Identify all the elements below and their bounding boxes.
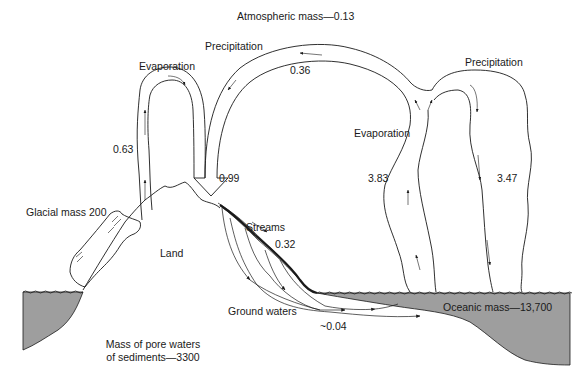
- streams-label: Streams: [246, 221, 285, 234]
- water-cycle-diagram: Atmospheric mass—0.13 Precipitation 0.36…: [0, 0, 585, 381]
- pore-waters-label: Mass of pore waters of sediments—3300: [98, 338, 208, 363]
- ocean-evaporation-value: 3.83: [368, 172, 388, 185]
- pore-waters-line2: of sediments—3300: [98, 351, 208, 364]
- land-precipitation-value: 0.36: [290, 64, 310, 77]
- land-evaporation-value: 0.63: [113, 143, 133, 156]
- glacier: [70, 211, 141, 287]
- land-evaporation-loop: [137, 67, 205, 220]
- ocean-precipitation-label: Precipitation: [465, 56, 523, 69]
- ocean-evaporation-label: Evaporation: [354, 127, 410, 140]
- oceanic-mass-label: Oceanic mass—13,700: [443, 301, 552, 314]
- land-precipitation-label: Precipitation: [205, 40, 263, 53]
- land-label: Land: [160, 247, 183, 260]
- pore-waters-line1: Mass of pore waters: [98, 338, 208, 351]
- streams-value: 0.32: [275, 238, 295, 251]
- ocean-precipitation-value: 3.47: [497, 172, 517, 185]
- glacial-mass-label: Glacial mass 200: [26, 206, 107, 219]
- land-evaporation-label: Evaporation: [139, 60, 195, 73]
- atmospheric-mass-label: Atmospheric mass—0.13: [237, 10, 354, 23]
- ground-waters-label: Ground waters: [228, 305, 297, 318]
- left-sea: [23, 291, 83, 350]
- total-land-precipitation-value: 0.99: [219, 172, 239, 185]
- ground-waters-value: ~0.04: [320, 320, 347, 333]
